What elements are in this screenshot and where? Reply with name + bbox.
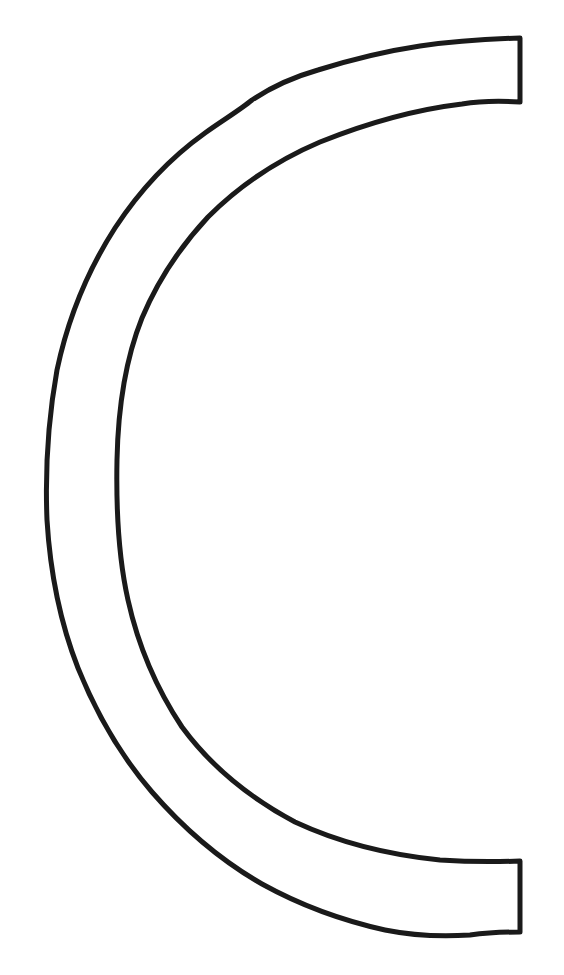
c-shape-outline [46,38,520,936]
drawing-canvas: Outlined C-shaped semicircular band (col… [0,0,564,975]
c-shape-figure [0,0,564,975]
